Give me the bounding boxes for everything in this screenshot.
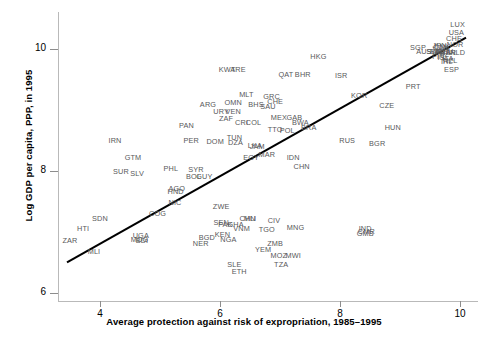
data-point-label: PHL bbox=[163, 163, 178, 172]
data-point-label: TGO bbox=[259, 224, 275, 233]
data-point-label: AGO bbox=[168, 183, 185, 192]
data-point-label: COG bbox=[149, 209, 166, 218]
data-point-label: MNG bbox=[287, 222, 304, 231]
y-tick-label: 8 bbox=[24, 164, 46, 175]
data-point-label: SUR bbox=[113, 166, 129, 175]
data-point-label: CHN bbox=[293, 161, 309, 170]
data-point-label: ETH bbox=[232, 266, 247, 275]
y-axis-title: Log GDP per capita, PPP, in 1995 bbox=[23, 46, 34, 246]
data-point-label: TZA bbox=[274, 259, 288, 268]
data-point-label: NER bbox=[193, 239, 209, 248]
data-point-label: ARE bbox=[230, 65, 245, 74]
data-point-label: GUY bbox=[196, 171, 212, 180]
data-point-label: MEX bbox=[271, 113, 287, 122]
data-point-label: COL bbox=[246, 117, 261, 126]
data-point-label: BDI bbox=[136, 236, 149, 245]
data-point-label: NIC bbox=[168, 198, 181, 207]
data-point-label: ISR bbox=[335, 71, 348, 80]
x-axis-title: Average protection against risk of expro… bbox=[0, 316, 488, 327]
data-point-label: SLV bbox=[130, 169, 144, 178]
data-point-label: DZA bbox=[228, 138, 243, 147]
data-point-label: QAT bbox=[279, 70, 294, 79]
data-point-label: CIV bbox=[268, 215, 281, 224]
data-point-label: KOR bbox=[351, 91, 367, 100]
data-point-label: MLI bbox=[244, 214, 257, 223]
data-point-label: PRT bbox=[406, 82, 421, 91]
data-point-label: OMN bbox=[224, 98, 241, 107]
data-point-label: IRN bbox=[108, 136, 121, 145]
data-point-label: GMB bbox=[357, 229, 374, 238]
data-point-label: LKA bbox=[248, 141, 262, 150]
y-tick-mark bbox=[50, 293, 58, 294]
data-point-label: YEM bbox=[255, 244, 271, 253]
data-point-label: EGY bbox=[243, 153, 259, 162]
data-point-label: VEN bbox=[225, 106, 240, 115]
y-tick-mark bbox=[50, 49, 58, 50]
data-point-label: HKG bbox=[310, 51, 326, 60]
data-point-label: DOM bbox=[206, 137, 223, 146]
data-point-label: MLT bbox=[239, 89, 254, 98]
data-point-label: MLI bbox=[88, 247, 101, 256]
data-point-label: POL bbox=[280, 126, 295, 135]
data-point-label: HTI bbox=[77, 223, 89, 232]
data-point-label: RUS bbox=[339, 136, 355, 145]
y-tick-label: 6 bbox=[24, 286, 46, 297]
data-point-label: BRA bbox=[301, 122, 316, 131]
data-point-label: ZWE bbox=[213, 201, 230, 210]
data-point-label: BHR bbox=[295, 70, 311, 79]
data-point-label: KEN bbox=[215, 230, 230, 239]
data-point-label: VNM bbox=[233, 224, 250, 233]
data-point-label: CZE bbox=[379, 100, 394, 109]
chart-figure: Log GDP per capita, PPP, in 1995 6810 46… bbox=[0, 0, 488, 339]
data-point-label: GTM bbox=[125, 153, 142, 162]
data-point-label: PAN bbox=[179, 120, 194, 129]
data-point-label: ESP bbox=[444, 65, 459, 74]
y-tick-mark bbox=[50, 171, 58, 172]
data-point-label: HUN bbox=[385, 122, 401, 131]
data-point-label: ZAR bbox=[62, 235, 77, 244]
data-point-label: PER bbox=[183, 136, 198, 145]
y-tick-label: 10 bbox=[24, 42, 46, 53]
data-point-label: SDN bbox=[92, 214, 108, 223]
data-point-label: BGR bbox=[369, 138, 385, 147]
data-point-label: CHE bbox=[267, 97, 283, 106]
plot-area: 6810 46810 ZARHTIMLISDNUGAMDGBDISURSLVGT… bbox=[58, 12, 478, 302]
